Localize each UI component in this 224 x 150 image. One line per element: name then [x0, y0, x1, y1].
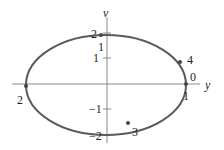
phase-plane-diagram: v y 2 1 −1 −2 1 4 0 1 2 3 — [0, 0, 224, 150]
point-2-left — [24, 84, 28, 88]
label-point-0: 0 — [190, 70, 196, 84]
orbit-ellipse — [26, 35, 186, 135]
label-point-2-left: 2 — [17, 93, 23, 107]
label-point-4: 4 — [187, 53, 193, 67]
point-0 — [184, 82, 188, 86]
y-axis-label: y — [204, 78, 211, 92]
point-4 — [178, 60, 182, 64]
label-point-1: 1 — [183, 89, 189, 103]
label-top-1: 1 — [98, 40, 104, 54]
diagram-canvas: v y 2 1 −1 −2 1 4 0 1 2 3 — [0, 0, 224, 150]
tick-label-neg2: −2 — [89, 129, 102, 143]
tick-label-2: 2 — [91, 27, 97, 41]
point-3 — [126, 121, 130, 125]
label-point-3: 3 — [132, 125, 138, 139]
point-2-top — [99, 33, 103, 37]
v-axis-label: v — [103, 6, 109, 20]
tick-label-neg1: −1 — [89, 102, 102, 116]
